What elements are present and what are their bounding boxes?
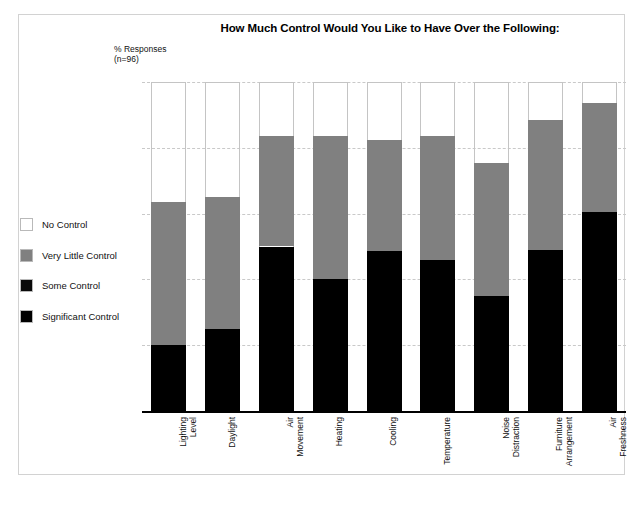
bar-segment-significant-control bbox=[420, 260, 455, 411]
x-axis-label-line: Heating bbox=[335, 417, 345, 505]
chart-title: How Much Control Would You Like to Have … bbox=[150, 22, 630, 34]
x-axis-label-9: AirFreshness bbox=[609, 417, 628, 505]
bar-6[interactable] bbox=[420, 82, 455, 411]
x-axis-label-line: Arrangement bbox=[565, 417, 575, 505]
bar-1[interactable] bbox=[151, 82, 186, 411]
bar-segment-significant-control bbox=[582, 212, 617, 411]
bar-7[interactable] bbox=[474, 82, 509, 411]
x-axis-label-3: AirMovement bbox=[286, 417, 305, 505]
bar-segment-very-little-control bbox=[151, 202, 186, 345]
bar-segment-significant-control bbox=[313, 279, 348, 411]
bar-segment-very-little-control bbox=[420, 136, 455, 259]
chart-figure: How Much Control Would You Like to Have … bbox=[0, 0, 643, 508]
plot-area: 020406080100LightingLevelDaylightAirMove… bbox=[142, 82, 626, 411]
legend-swatch bbox=[20, 249, 33, 262]
bar-5[interactable] bbox=[367, 82, 402, 411]
bar-segment-very-little-control bbox=[582, 103, 617, 212]
bar-segment-very-little-control bbox=[474, 163, 509, 296]
legend-label: Very Little Control bbox=[42, 250, 117, 261]
legend-swatch bbox=[20, 218, 33, 231]
x-axis-label-line: Daylight bbox=[228, 417, 238, 505]
bar-8[interactable] bbox=[528, 82, 563, 411]
x-axis-label-6: Temperature bbox=[443, 417, 453, 505]
x-axis-label-7: NoiseDistraction bbox=[502, 417, 521, 505]
y-axis-label-line2: (n=96) bbox=[114, 55, 166, 65]
x-axis-label-line: Movement bbox=[296, 417, 306, 505]
bar-segment-very-little-control bbox=[205, 197, 240, 329]
x-axis-label-8: FurnitureArrangement bbox=[555, 417, 574, 505]
x-axis-label-line: Level bbox=[188, 417, 198, 505]
x-axis-label-line: Distraction bbox=[511, 417, 521, 505]
bar-segment-significant-control bbox=[259, 247, 294, 412]
x-axis-label-line: Noise bbox=[502, 417, 512, 505]
bar-segment-significant-control bbox=[205, 329, 240, 411]
bar-segment-very-little-control bbox=[313, 136, 348, 279]
bar-segment-significant-control bbox=[151, 345, 186, 411]
x-axis-label-1: LightingLevel bbox=[179, 417, 198, 505]
legend-swatch bbox=[20, 279, 33, 292]
bar-segment-significant-control bbox=[528, 250, 563, 411]
legend-label: No Control bbox=[42, 219, 87, 230]
bar-segment-significant-control bbox=[474, 296, 509, 411]
bar-9[interactable] bbox=[582, 82, 617, 411]
legend-label: Some Control bbox=[42, 280, 100, 291]
x-axis-label-line: Lighting bbox=[179, 417, 189, 505]
legend-label: Significant Control bbox=[42, 311, 119, 322]
bar-3[interactable] bbox=[259, 82, 294, 411]
bar-2[interactable] bbox=[205, 82, 240, 411]
x-axis-label-line: Cooling bbox=[389, 417, 399, 505]
y-axis-label: % Responses (n=96) bbox=[114, 45, 166, 64]
x-axis-label-5: Cooling bbox=[389, 417, 399, 505]
legend-swatch bbox=[20, 310, 33, 323]
bar-segment-significant-control bbox=[367, 251, 402, 411]
x-axis-label-line: Temperature bbox=[443, 417, 453, 505]
bar-4[interactable] bbox=[313, 82, 348, 411]
bar-segment-very-little-control bbox=[367, 140, 402, 252]
x-axis-label-line: Freshness bbox=[619, 417, 629, 505]
bar-segment-very-little-control bbox=[259, 136, 294, 246]
gridline-0 bbox=[142, 411, 626, 413]
x-axis-label-2: Daylight bbox=[228, 417, 238, 505]
x-axis-label-4: Heating bbox=[335, 417, 345, 505]
bar-segment-very-little-control bbox=[528, 120, 563, 250]
